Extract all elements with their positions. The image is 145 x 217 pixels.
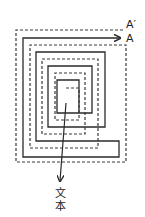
label-a: A xyxy=(126,32,134,45)
label-text-line2: 本 xyxy=(55,199,66,213)
dashed-spiral xyxy=(16,30,126,162)
label-text-line1: 文 xyxy=(55,186,66,200)
solid-spiral xyxy=(23,38,120,157)
output-arrow xyxy=(60,103,66,181)
double-spiral-diagram: A′ A 文 本 xyxy=(0,0,145,217)
label-a-prime: A′ xyxy=(126,18,137,31)
